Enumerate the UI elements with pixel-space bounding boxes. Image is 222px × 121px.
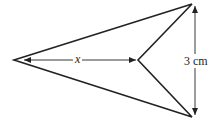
dart-shape [14, 4, 192, 117]
label-3cm: 3 cm [184, 54, 208, 68]
label-x: x [73, 53, 82, 65]
